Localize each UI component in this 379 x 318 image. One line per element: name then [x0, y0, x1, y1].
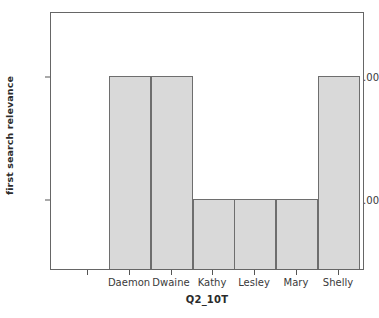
x-tick-mark-0 [87, 270, 88, 275]
x-tick-mark-5 [296, 270, 297, 275]
bar-kathy [193, 199, 235, 269]
bar-lesley [234, 199, 276, 269]
x-tick-label-mary: Mary [284, 277, 309, 288]
x-tick-label-daemon: Daemon [108, 277, 150, 288]
x-tick-label-dwaine: Dwaine [152, 277, 189, 288]
bar-shelly [318, 76, 360, 269]
x-tick-mark-3 [212, 270, 213, 275]
x-tick-mark-6 [338, 270, 339, 275]
x-tick-label-shelly: Shelly [323, 277, 353, 288]
bar-dwaine [151, 76, 193, 269]
x-tick-label-kathy: Kathy [198, 277, 227, 288]
x-axis-title: Q2_10T [50, 294, 364, 305]
plot-area [50, 12, 364, 270]
y-axis-title-text: first search relevance [4, 76, 15, 195]
bar-daemon [109, 76, 151, 269]
x-tick-mark-4 [254, 270, 255, 275]
x-tick-label-lesley: Lesley [238, 277, 270, 288]
x-tick-mark-1 [129, 270, 130, 275]
bar-chart: first search relevance 3.00 2.00 Daemon … [0, 0, 379, 318]
x-tick-mark-2 [171, 270, 172, 275]
y-axis-title: first search relevance [0, 0, 18, 270]
bar-mary [276, 199, 318, 269]
